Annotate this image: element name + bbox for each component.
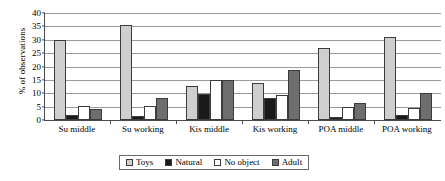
x-axis-labels: Su middleSu workingKis middleKis working…: [44, 124, 440, 134]
bar[interactable]: [132, 116, 144, 120]
legend-item[interactable]: No object: [214, 157, 259, 167]
x-axis-label: POA working: [374, 124, 440, 134]
x-axis-label: Kis middle: [176, 124, 242, 134]
legend-label: Adult: [282, 157, 303, 167]
bar[interactable]: [78, 106, 90, 120]
bar[interactable]: [288, 70, 300, 120]
bar[interactable]: [330, 117, 342, 120]
bar[interactable]: [384, 37, 396, 120]
legend-item[interactable]: Natural: [165, 157, 202, 167]
bar[interactable]: [144, 106, 156, 120]
y-tick-label: 35: [32, 22, 41, 31]
bar[interactable]: [90, 109, 102, 120]
y-tick-label: 20: [32, 62, 41, 71]
y-tick-label: 0: [37, 116, 42, 125]
y-axis-title: % of observations: [17, 1, 27, 121]
y-tick-label: 15: [32, 75, 41, 84]
legend-item[interactable]: Toys: [126, 157, 153, 167]
legend-swatch-icon: [272, 159, 279, 166]
bar-chart: % of observations 0510152025303540 Su mi…: [0, 0, 445, 181]
bar[interactable]: [342, 107, 354, 120]
legend-label: Natural: [175, 157, 202, 167]
bar[interactable]: [420, 93, 432, 120]
y-tick-label: 25: [32, 49, 41, 58]
bar[interactable]: [276, 95, 288, 120]
bar[interactable]: [120, 25, 132, 120]
bar-group: [375, 13, 441, 120]
bar-group: [45, 13, 111, 120]
y-tick-label: 40: [32, 9, 41, 18]
y-tick-label: 10: [32, 89, 41, 98]
legend-label: No object: [224, 157, 259, 167]
bar-group: [243, 13, 309, 120]
x-axis-label: Kis working: [242, 124, 308, 134]
bar-group: [309, 13, 375, 120]
bar[interactable]: [222, 80, 234, 120]
bar[interactable]: [318, 48, 330, 120]
x-axis-label: Su working: [110, 124, 176, 134]
x-axis-label: POA middle: [308, 124, 374, 134]
bar-group: [111, 13, 177, 120]
legend-label: Toys: [136, 157, 153, 167]
bar[interactable]: [186, 86, 198, 120]
chart-legend: ToysNaturalNo objectAdult: [119, 155, 309, 170]
bar[interactable]: [66, 115, 78, 120]
legend-swatch-icon: [165, 159, 172, 166]
bar[interactable]: [156, 98, 168, 120]
y-tick-label: 30: [32, 35, 41, 44]
bar[interactable]: [396, 115, 408, 120]
bar-group: [177, 13, 243, 120]
bar[interactable]: [54, 40, 66, 120]
plot-area: 0510152025303540: [44, 13, 441, 121]
bar[interactable]: [198, 94, 210, 120]
legend-item[interactable]: Adult: [272, 157, 303, 167]
bar-groups: [45, 13, 441, 120]
legend-swatch-icon: [214, 159, 221, 166]
bar[interactable]: [210, 80, 222, 120]
y-tick-label: 5: [37, 102, 42, 111]
bar[interactable]: [252, 83, 264, 120]
x-axis-label: Su middle: [44, 124, 110, 134]
legend-swatch-icon: [126, 159, 133, 166]
bar[interactable]: [264, 98, 276, 120]
bar[interactable]: [408, 108, 420, 120]
bar[interactable]: [354, 103, 366, 120]
